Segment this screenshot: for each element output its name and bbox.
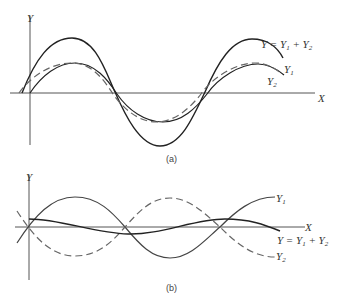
- panel-a-x-label: X: [317, 92, 326, 104]
- panel-a-sum-curve: [22, 38, 283, 146]
- panel-a-y1-label: Y1: [284, 63, 294, 77]
- panel-b-y-label: Y: [26, 171, 34, 183]
- panel-a-y2-label: Y2: [267, 75, 277, 89]
- panel-a-sum-label: Y = Y1 + Y2: [261, 38, 313, 52]
- panel-b-y2-label: Y2: [276, 250, 286, 264]
- panel-b-sum-label: Y = Y1 + Y2: [277, 234, 329, 248]
- panel-b-x-label: X: [304, 221, 313, 233]
- panel-a: Y X Y = Y1 + Y2 Y1 Y2 (a): [10, 12, 326, 164]
- panel-b: Y X Y1 Y = Y1 + Y2 Y2 (b): [15, 171, 329, 293]
- panel-a-caption: (a): [166, 154, 177, 164]
- wave-superposition-figure: Y X Y = Y1 + Y2 Y1 Y2 (a) Y X Y1 Y = Y1 …: [0, 0, 345, 301]
- panel-b-y1-label: Y1: [276, 192, 286, 206]
- panel-b-caption: (b): [166, 283, 177, 293]
- panel-a-y-label: Y: [27, 12, 35, 24]
